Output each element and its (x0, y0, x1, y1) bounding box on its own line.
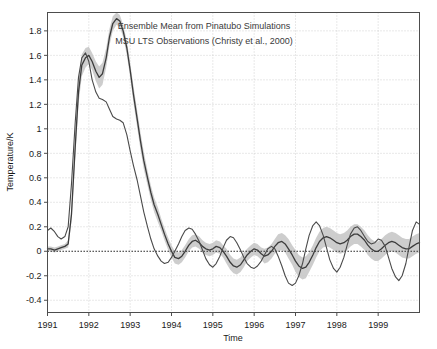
y-tick-label: 1.8 (29, 26, 42, 36)
y-axis-label: Temperature/K (5, 132, 15, 191)
y-tick-label: 1 (36, 124, 41, 134)
legend-entry-ensemble-mean: Ensemble Mean from Pinatubo Simulations (118, 21, 291, 31)
y-tick-label: 0.2 (29, 222, 42, 232)
x-tick-label: 1998 (327, 320, 347, 330)
y-tick-label: 0.4 (29, 197, 42, 207)
x-tick-label: 1993 (120, 320, 140, 330)
x-tick-label: 1997 (285, 320, 305, 330)
temperature-anomaly-chart: 199119921993199419951996199719981999 -0.… (0, 0, 437, 349)
x-tick-label: 1994 (161, 320, 181, 330)
chart-figure: 199119921993199419951996199719981999 -0.… (0, 0, 437, 349)
x-tick-label: 1995 (203, 320, 223, 330)
y-tick-label: 1.2 (29, 100, 42, 110)
y-tick-label: -0.4 (26, 295, 42, 305)
legend-entry-msu-observations: MSU LTS Observations (Christy et al., 20… (115, 36, 292, 46)
y-tick-label: 0 (36, 246, 41, 256)
y-tick-label: 0.6 (29, 173, 42, 183)
x-axis-label: Time (223, 333, 243, 343)
x-tick-label: 1999 (368, 320, 388, 330)
y-tick-label: 0.8 (29, 149, 42, 159)
x-tick-label: 1991 (37, 320, 57, 330)
x-tick-label: 1992 (79, 320, 99, 330)
chart-background (0, 0, 437, 349)
y-tick-label: 1.6 (29, 51, 42, 61)
x-tick-label: 1996 (244, 320, 264, 330)
y-tick-label: 1.4 (29, 75, 42, 85)
y-tick-label: -0.2 (26, 271, 42, 281)
